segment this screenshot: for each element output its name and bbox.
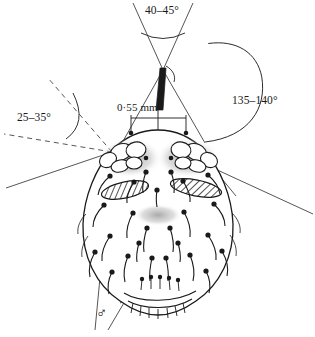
palp-right-seg5 — [175, 157, 191, 169]
left-angle-label: 25–35° — [17, 111, 51, 123]
palp-left-seg5 — [126, 157, 142, 169]
angle-arcs — [66, 33, 266, 142]
mite-diagram-svg — [0, 0, 315, 337]
chelicera-hook — [166, 66, 175, 82]
apex-angle-label: 40–45° — [145, 4, 179, 16]
left-angle-arc — [66, 93, 79, 139]
width-measure-label: 0·55 mm — [117, 101, 158, 113]
mite-body — [78, 66, 240, 319]
male-sex-symbol: ♂ — [96, 306, 107, 321]
right-angle-label: 135–140° — [232, 94, 278, 106]
figure-panel: 40–45° 25–35° 135–140° 0·55 mm ♂ — [0, 0, 315, 337]
apex-angle-arc — [141, 33, 185, 39]
stipple-central-patch — [134, 204, 182, 226]
dashed-horizontal-ref — [4, 134, 112, 152]
right-angle-arc — [198, 40, 266, 142]
anterior-apex-group — [156, 66, 175, 110]
dashed-diagonal-ref — [48, 78, 112, 152]
